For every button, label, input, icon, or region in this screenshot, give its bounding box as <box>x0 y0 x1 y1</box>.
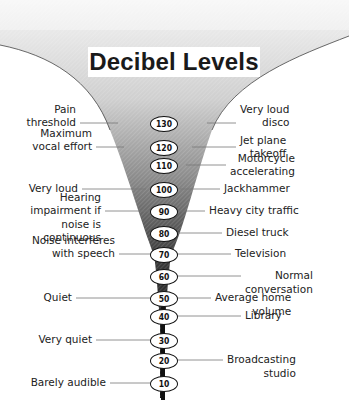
decibel-badge: 10 <box>150 376 178 392</box>
source-label-left: Quiet <box>44 291 72 305</box>
source-label-right: Diesel truck <box>226 226 289 240</box>
diagram-title: Decibel Levels <box>88 47 260 77</box>
source-label-right: Jackhammer <box>224 182 290 196</box>
decibel-badge: 70 <box>150 247 178 263</box>
decibel-badge: 120 <box>150 140 178 156</box>
source-label-right: Library <box>245 309 282 323</box>
source-label-right: Broadcastingstudio <box>227 353 296 380</box>
source-label-left: Very quiet <box>38 333 92 347</box>
source-label-left: Painthreshold <box>27 103 76 130</box>
decibel-badge: 20 <box>150 353 178 369</box>
source-label-right: Motorcycleaccelerating <box>230 152 295 179</box>
decibel-badge: 30 <box>150 333 178 349</box>
decibel-badge: 40 <box>150 309 178 325</box>
decibel-badge: 130 <box>150 116 178 132</box>
source-label-right: Television <box>235 247 286 261</box>
decibel-levels-diagram: Decibel Levels 1301201101009080706050403… <box>0 0 349 414</box>
source-label-left: Noise interfereswith speech <box>32 234 115 261</box>
decibel-badge: 50 <box>150 291 178 307</box>
source-label-left: Maximumvocal effort <box>32 127 92 154</box>
decibel-badge: 80 <box>150 226 178 242</box>
source-label-left: Barely audible <box>31 376 106 390</box>
decibel-badge: 90 <box>150 204 178 220</box>
decibel-badge: 60 <box>150 269 178 285</box>
decibel-badge: 110 <box>150 158 178 174</box>
decibel-badge: 100 <box>150 182 178 198</box>
source-label-right: Heavy city traffic <box>209 204 299 218</box>
source-label-right: Very louddisco <box>240 103 289 130</box>
